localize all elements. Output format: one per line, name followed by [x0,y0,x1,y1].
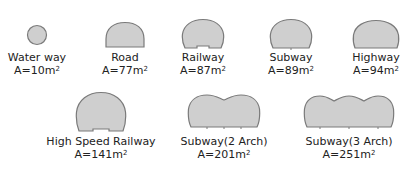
section-area: A=77m2 [102,64,148,77]
subway-3-arch-label: Subway(3 Arch) A=251m2 [305,135,392,161]
subway-label: Subway A=89m2 [268,51,314,77]
subway-2-arch-section-shape [187,93,261,131]
section-name: Subway(2 Arch) [180,135,267,148]
railway-section-shape [181,18,225,50]
subway-2-arch-label: Subway(2 Arch) A=201m2 [180,135,267,161]
section-area: A=10m2 [8,64,66,77]
subway-section-shape [269,18,313,51]
railway-label: Railway A=87m2 [180,51,226,77]
road-section-shape [104,21,146,49]
section-name: Subway(3 Arch) [305,135,392,148]
subway-3-arch-section-shape [303,94,395,131]
high-speed-railway-section-shape [75,91,127,133]
section-area: A=87m2 [180,64,226,77]
section-area: A=89m2 [268,64,314,77]
water-way-label: Water way A=10m2 [8,51,66,77]
section-area: A=94m2 [352,64,400,77]
section-area: A=141m2 [46,148,155,161]
road-label: Road A=77m2 [102,51,148,77]
high-speed-railway-label: High Speed Railway A=141m2 [46,135,155,161]
section-name: Railway [182,51,225,64]
highway-label: Highway A=94m2 [352,51,400,77]
section-area: A=251m2 [305,148,392,161]
section-name: Subway [269,51,312,64]
highway-section-shape [352,19,400,50]
section-area: A=201m2 [180,148,267,161]
section-name: Road [111,51,139,64]
water-way-section-shape [26,24,48,46]
section-name: Water way [8,51,66,64]
section-name: Highway [352,51,400,64]
section-name: High Speed Railway [46,135,155,148]
